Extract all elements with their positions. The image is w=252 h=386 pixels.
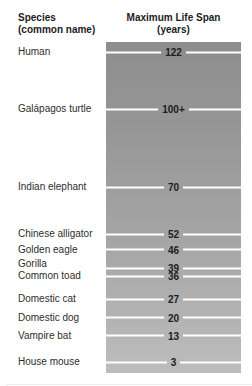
species-label: Gorilla [18,258,47,270]
tick-row: 13 [106,330,241,341]
value-label: 20 [164,312,183,323]
tick-line-right [183,249,241,251]
lifespan-column-header: Maximum Life Span (years) [106,12,241,36]
tick-line-left [106,335,164,337]
value-label: 3 [167,357,181,368]
tick-row: 36 [106,271,241,282]
tick-line-right [180,361,241,363]
tick-row: 122 [106,47,241,58]
species-label: House mouse [18,356,80,368]
value-label: 70 [164,182,183,193]
value-label: 100+ [158,104,189,115]
species-label: Indian elephant [18,181,86,193]
bottom-rule [6,384,252,385]
tick-row: 27 [106,294,241,305]
species-label: Galápagos turtle [18,103,91,115]
value-label: 52 [164,229,183,240]
value-label: 36 [164,271,183,282]
tick-line-right [183,317,241,319]
species-label: Human [18,46,50,58]
tick-line-left [106,249,164,251]
tick-line-left [106,51,161,53]
tick-line-right [183,298,241,300]
tick-line-left [106,361,167,363]
value-label: 46 [164,244,183,255]
species-label: Golden eagle [18,244,78,256]
tick-line-left [106,317,164,319]
tick-line-left [106,108,158,110]
tick-row: 20 [106,312,241,323]
value-label: 13 [164,330,183,341]
tick-line-right [183,335,241,337]
tick-line-left [106,186,164,188]
species-label: Domestic dog [18,312,79,324]
tick-row: 3 [106,357,241,368]
tick-line-right [189,108,241,110]
tick-line-right [183,267,241,269]
tick-line-right [183,233,241,235]
tick-row: 100+ [106,104,241,115]
lifespan-bar: 122100+70524639362720133 [106,42,241,373]
species-label: Common toad [18,270,81,282]
value-label: 27 [164,294,183,305]
tick-row: 52 [106,229,241,240]
species-label: Vampire bat [18,330,71,342]
tick-line-left [106,233,164,235]
tick-line-left [106,298,164,300]
tick-row: 70 [106,182,241,193]
tick-line-left [106,275,164,277]
tick-line-right [183,186,241,188]
species-label: Chinese alligator [18,228,93,240]
tick-line-right [183,275,241,277]
tick-line-right [186,51,241,53]
tick-line-left [106,267,164,269]
species-label: Domestic cat [18,293,76,305]
value-label: 122 [161,47,186,58]
tick-row: 46 [106,244,241,255]
lifespan-figure: Species (common name) Maximum Life Span … [0,0,252,386]
species-labels: HumanGalápagos turtleIndian elephantChin… [0,0,106,386]
